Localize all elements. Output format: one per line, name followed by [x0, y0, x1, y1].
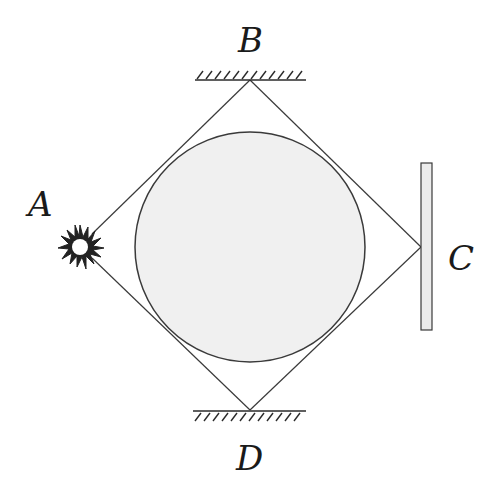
mirror-D — [193, 411, 306, 421]
circular-disc — [135, 132, 365, 362]
label-C: C — [448, 238, 474, 278]
label-A: A — [25, 184, 53, 224]
label-D: D — [235, 438, 263, 478]
label-B: B — [237, 20, 263, 60]
plate-C — [421, 163, 432, 330]
diagram-canvas: A B C D — [0, 0, 496, 496]
mirror-B — [195, 71, 306, 80]
